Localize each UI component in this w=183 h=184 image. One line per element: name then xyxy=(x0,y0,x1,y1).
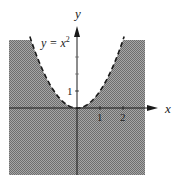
x-axis-arrow-icon xyxy=(147,105,158,111)
y-axis-label: y xyxy=(73,6,81,21)
inequality-graph: y x 1 2 1 y = x2 xyxy=(0,0,183,184)
curve-label-text: y = x2 xyxy=(40,35,70,50)
curve-label: y = x2 xyxy=(38,35,74,50)
y-tick-label-1: 1 xyxy=(67,85,73,97)
x-tick-label-1: 1 xyxy=(97,111,103,123)
x-axis-label: x xyxy=(164,101,171,116)
x-tick-label-2: 2 xyxy=(120,111,126,123)
y-axis-arrow-icon xyxy=(74,26,80,37)
